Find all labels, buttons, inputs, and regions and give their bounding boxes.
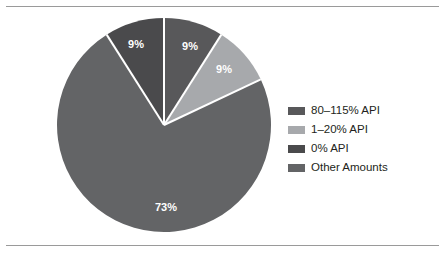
legend-item[interactable]: 1–20% API xyxy=(288,120,438,139)
pie-chart-svg: 9%9%73%9% xyxy=(0,0,290,254)
pie-slice-data-label: 9% xyxy=(182,40,198,52)
figure-container: 9%9%73%9% 80–115% API1–20% API0% APIOthe… xyxy=(0,0,445,254)
legend-item-label: 0% API xyxy=(311,143,349,155)
legend-swatch-icon xyxy=(288,107,305,115)
pie-slice-data-label: 9% xyxy=(216,63,232,75)
legend-item[interactable]: 0% API xyxy=(288,139,438,158)
legend-swatch-icon xyxy=(288,145,305,153)
pie-slice-data-label: 73% xyxy=(155,201,177,213)
legend-item-label: 80–115% API xyxy=(311,105,380,117)
pie-chart: 9%9%73%9% xyxy=(0,0,290,254)
legend-swatch-icon xyxy=(288,126,305,134)
legend-swatch-icon xyxy=(288,164,305,172)
pie-slice-data-label: 9% xyxy=(128,38,144,50)
legend-item-label: 1–20% API xyxy=(311,124,368,136)
legend-item-label: Other Amounts xyxy=(311,162,388,174)
legend-item[interactable]: Other Amounts xyxy=(288,158,438,177)
chart-legend: 80–115% API1–20% API0% APIOther Amounts xyxy=(288,101,438,177)
legend-item[interactable]: 80–115% API xyxy=(288,101,438,120)
